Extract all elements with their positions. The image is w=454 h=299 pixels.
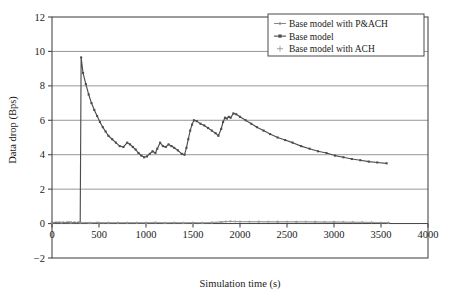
y-tick-label-2: 2 [40, 184, 45, 195]
data-point [102, 126, 104, 128]
data-point [185, 147, 187, 149]
data-point [220, 128, 222, 130]
data-point [189, 130, 191, 132]
data-point [211, 130, 213, 132]
data-point [162, 145, 164, 147]
y-axis-title: Data drop (Bps) [7, 96, 19, 164]
y-tick-label-0: 0 [40, 218, 45, 229]
data-point [351, 158, 353, 160]
x-tick-label-0: 0 [49, 229, 54, 240]
data-point [224, 117, 226, 119]
data-point [90, 102, 92, 104]
data-point [135, 149, 137, 151]
data-point [143, 156, 145, 158]
data-point [199, 123, 201, 125]
data-point [165, 146, 167, 148]
data-point [376, 161, 378, 163]
data-point [269, 133, 271, 135]
legend-item-0[interactable]: Base model with P&ACH [274, 19, 388, 29]
data-point [334, 155, 336, 157]
y-tick-label--2: −2 [34, 253, 45, 264]
data-point [256, 126, 258, 128]
data-point [262, 130, 264, 132]
data-point [107, 135, 109, 137]
data-point [359, 159, 361, 161]
data-point [88, 93, 90, 95]
data-point [154, 152, 156, 154]
data-point [193, 119, 195, 121]
data-point [115, 142, 117, 144]
data-point [146, 155, 148, 157]
data-point [235, 113, 237, 115]
x-tick-label-3000: 3000 [324, 229, 345, 240]
data-point [203, 124, 205, 126]
data-point [170, 145, 172, 147]
data-point [277, 136, 279, 138]
x-tick-label-1000: 1000 [136, 229, 157, 240]
data-point [309, 148, 311, 150]
data-point [119, 145, 121, 147]
data-point [126, 142, 128, 144]
data-point [245, 119, 247, 121]
x-tick-label-2000: 2000 [230, 229, 251, 240]
legend-box[interactable]: Base model with P&ACHBase modelBase mode… [268, 14, 424, 56]
data-point [228, 116, 230, 118]
data-point [368, 161, 370, 163]
data-point [181, 153, 183, 155]
legend-label-2: Base model with ACH [289, 44, 375, 54]
data-point [191, 124, 193, 126]
legend-item-2[interactable]: Base model with ACH [277, 44, 375, 54]
data-point [85, 83, 87, 85]
data-point [187, 138, 189, 140]
legend-label-0: Base model with P&ACH [289, 19, 388, 29]
y-tick-label-12: 12 [35, 12, 46, 23]
data-point [129, 143, 131, 145]
data-point [215, 132, 217, 134]
data-point [152, 150, 154, 152]
data-point [207, 127, 209, 129]
data-point [80, 56, 82, 58]
y-tick-label-4: 4 [40, 149, 46, 160]
data-point [230, 117, 232, 119]
data-point [137, 152, 139, 154]
x-tick-label-500: 500 [91, 229, 107, 240]
data-drop-line-chart: −2024681012 0500100015002000250030003500… [0, 0, 454, 299]
legend-marker-dot-icon [279, 22, 282, 25]
x-tick-label-4000: 4000 [418, 229, 439, 240]
legend-label-1: Base model [289, 32, 334, 42]
chart-figure: −2024681012 0500100015002000250030003500… [0, 0, 454, 299]
data-point [222, 121, 224, 123]
data-point [96, 115, 98, 117]
data-point [284, 139, 286, 141]
data-point [226, 118, 228, 120]
data-point [111, 138, 113, 140]
data-point [325, 152, 327, 154]
data-point [105, 130, 107, 132]
data-point [99, 121, 101, 123]
x-axis-title: Simulation time (s) [199, 278, 281, 290]
data-point [93, 109, 95, 111]
legend-marker-square-icon [278, 35, 281, 38]
x-tick-label-2500: 2500 [277, 229, 298, 240]
data-point [177, 149, 179, 151]
data-point [183, 154, 185, 156]
x-tick-label-3500: 3500 [371, 229, 392, 240]
data-point [250, 123, 252, 125]
data-point [122, 146, 124, 148]
data-point [342, 156, 344, 158]
data-point [173, 147, 175, 149]
data-point [217, 135, 219, 137]
data-point [232, 112, 234, 114]
y-tick-label-6: 6 [40, 115, 45, 126]
y-tick-label-8: 8 [40, 80, 45, 91]
y-tick-label-10: 10 [35, 46, 46, 57]
x-tick-label-1500: 1500 [183, 229, 204, 240]
data-point [317, 150, 319, 152]
data-point [132, 146, 134, 148]
data-point [159, 142, 161, 144]
data-point [196, 120, 198, 122]
data-point [386, 162, 388, 164]
data-point [239, 116, 241, 118]
data-point [300, 145, 302, 147]
data-point [168, 143, 170, 145]
